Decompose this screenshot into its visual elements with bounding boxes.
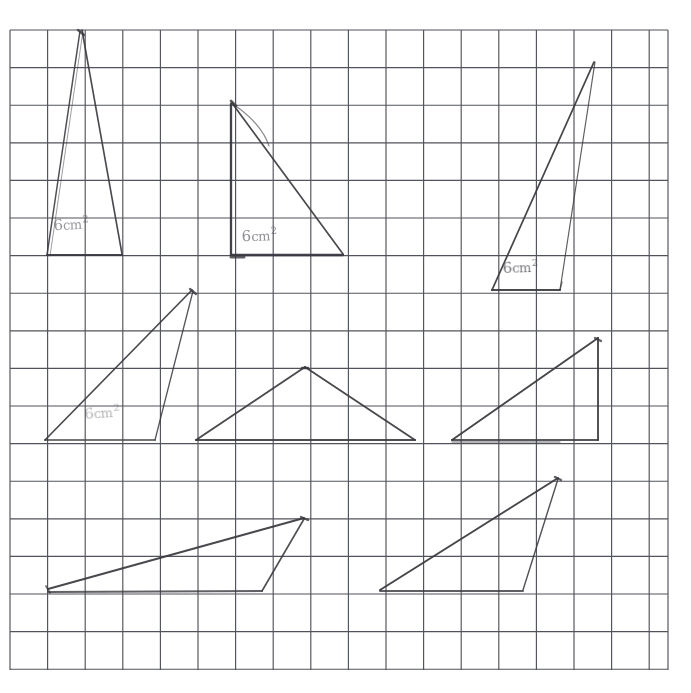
graph-paper-canvas	[0, 0, 691, 693]
scanned-page: 6cm2 6cm2 6cm2 6cm2	[0, 0, 691, 693]
